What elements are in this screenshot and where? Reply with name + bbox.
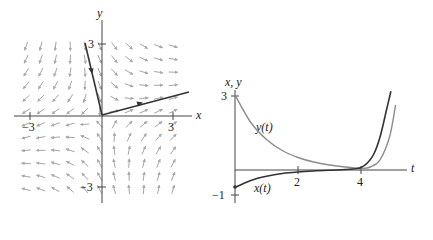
field-arrow-icon (81, 136, 89, 140)
time-series-plot: 2 4 3 −1 x, y t y(t) x(t) (212, 75, 415, 203)
field-arrow-icon (23, 95, 30, 101)
y-tick-label-neg3: −3 (80, 180, 93, 194)
field-arrow-icon (55, 55, 57, 64)
field-arrow-icon (22, 150, 31, 151)
field-arrow-icon (172, 185, 175, 194)
field-arrow-icon (171, 159, 175, 167)
field-arrow-icon (70, 68, 72, 77)
field-arrow-icon (97, 147, 102, 155)
trajectory-outgoing (102, 92, 189, 115)
field-arrow-icon (37, 123, 45, 126)
field-arrow-icon (139, 98, 148, 99)
field-arrow-icon (114, 133, 115, 142)
y-series-label: y(t) (255, 120, 273, 134)
field-arrow-icon (54, 68, 57, 77)
field-arrow-icon (112, 56, 118, 63)
field-arrow-icon (113, 185, 116, 194)
field-arrow-icon (80, 124, 89, 125)
field-arrow-icon (66, 149, 75, 152)
field-arrow-icon (23, 82, 29, 89)
field-arrow-icon (24, 55, 28, 63)
field-arrow-icon (111, 69, 117, 76)
field-arrow-icon (53, 81, 57, 89)
field-arrow-icon (155, 122, 162, 128)
field-arrow-icon (67, 109, 74, 115)
x-tick-label-3: 3 (168, 120, 174, 134)
x-of-t-start-point (233, 185, 237, 189)
field-arrow-icon (143, 185, 144, 194)
field-arrow-icon (82, 160, 89, 166)
field-arrow-icon (169, 45, 178, 47)
field-arrow-icon (128, 146, 130, 155)
field-arrow-icon (84, 55, 86, 64)
field-arrow-icon (141, 134, 146, 141)
field-arrow-icon (22, 188, 31, 190)
field-arrow-icon (97, 160, 101, 168)
field-arrow-icon (51, 150, 60, 151)
field-arrow-icon (139, 71, 148, 74)
field-arrow-icon (82, 173, 88, 180)
field-arrow-icon (24, 68, 29, 76)
field-arrow-icon (53, 95, 59, 102)
field-arrow-icon (97, 134, 102, 142)
field-arrow-icon (40, 42, 42, 51)
field-arrow-icon (69, 81, 72, 90)
field-arrow-icon (25, 42, 28, 50)
field-arrow-icon (51, 123, 60, 126)
field-arrow-icon (171, 172, 174, 180)
field-arrow-icon (113, 172, 115, 181)
field-arrow-icon (143, 159, 145, 168)
field-arrow-icon (98, 81, 101, 89)
field-arrow-icon (37, 175, 46, 177)
field-arrow-icon (84, 94, 87, 103)
field-arrow-icon (140, 121, 147, 127)
field-arrow-icon (98, 68, 102, 76)
field-arrow-icon (52, 187, 60, 191)
field-arrow-icon (125, 110, 133, 113)
field-arrow-icon (127, 133, 131, 141)
field-arrow-icon (154, 44, 162, 47)
field-arrow-icon (126, 121, 132, 127)
field-arrow-icon (81, 148, 88, 153)
field-arrow-icon (51, 137, 60, 138)
xy-tick-label-neg1: −1 (212, 188, 225, 202)
field-arrow-icon (126, 43, 133, 49)
field-arrow-icon (156, 147, 161, 155)
field-arrow-icon (98, 173, 102, 181)
direction-field-arrows (22, 42, 178, 194)
field-arrow-icon (70, 55, 71, 64)
field-arrow-icon (142, 146, 146, 154)
field-arrow-icon (125, 98, 134, 99)
t-tick-label-2: 2 (294, 175, 300, 189)
field-arrow-icon (39, 68, 43, 76)
x-axis-label: x (195, 108, 202, 122)
field-arrow-icon (85, 81, 86, 90)
field-arrow-icon (110, 96, 118, 100)
field-arrow-icon (98, 42, 102, 50)
field-arrow-icon (66, 137, 75, 138)
field-arrow-icon (98, 55, 102, 63)
field-arrow-icon (169, 58, 178, 59)
field-arrow-icon (36, 163, 45, 164)
field-arrow-icon (125, 84, 133, 87)
t-tick-label-4: 4 (357, 175, 363, 189)
field-arrow-icon (156, 134, 162, 141)
field-arrow-icon (140, 57, 148, 61)
field-arrow-icon (114, 146, 115, 155)
trajectory-incoming (85, 43, 102, 115)
field-arrow-icon (129, 185, 130, 194)
field-arrow-icon (67, 187, 74, 193)
field-arrow-icon (82, 108, 88, 114)
field-arrow-icon (154, 58, 163, 61)
xy-axis-label: x, y (224, 75, 242, 89)
field-arrow-icon (154, 109, 162, 113)
field-arrow-icon (140, 44, 148, 49)
field-arrow-icon (37, 109, 45, 114)
field-arrow-icon (52, 109, 59, 114)
field-arrow-icon (38, 95, 44, 101)
field-arrow-icon (66, 161, 74, 165)
field-arrow-icon (139, 85, 148, 86)
x-of-t-curve (235, 91, 391, 187)
field-arrow-icon (39, 55, 42, 64)
field-arrow-icon (22, 136, 31, 138)
